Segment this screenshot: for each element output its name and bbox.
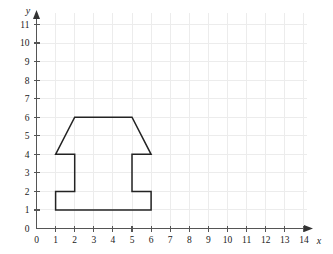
figure-polygon <box>56 117 152 210</box>
x-tick-label: 9 <box>206 235 211 245</box>
x-tick-label: 11 <box>242 235 251 245</box>
y-tick-label: 7 <box>25 94 30 104</box>
grid-lines <box>37 13 308 228</box>
x-tick-label: 7 <box>168 235 173 245</box>
y-tick-label: 0 <box>25 224 30 234</box>
figure-shapes <box>56 117 152 210</box>
x-axis-label: x <box>316 235 322 246</box>
x-tick-label: 6 <box>149 235 154 245</box>
y-tick-label: 8 <box>25 76 30 86</box>
x-axis-arrow-icon <box>304 225 313 232</box>
x-tick-label: 3 <box>91 235 96 245</box>
x-tick-label: 13 <box>280 235 290 245</box>
y-tick-label: 10 <box>20 38 30 48</box>
x-tick-label: 14 <box>299 235 309 245</box>
y-tick-label: 9 <box>25 57 30 67</box>
x-tick-label: 2 <box>72 235 77 245</box>
y-tick-label: 4 <box>25 150 30 160</box>
plot-svg: 01234567891011121314 01234567891011 x y <box>0 0 333 254</box>
x-tick-label: 10 <box>223 235 233 245</box>
x-tick-label: 0 <box>34 235 39 245</box>
y-tick-label: 3 <box>25 168 30 178</box>
y-tick-label: 1 <box>25 205 30 215</box>
x-tick-label: 1 <box>53 235 58 245</box>
y-axis-label: y <box>25 5 31 16</box>
x-tick-label: 5 <box>130 235 135 245</box>
coordinate-grid-figure: 01234567891011121314 01234567891011 x y <box>0 0 333 254</box>
y-axis-arrow-icon <box>33 10 40 19</box>
x-tick-label: 8 <box>187 235 192 245</box>
y-tick-label: 5 <box>25 131 30 141</box>
y-tick-label: 2 <box>25 187 30 197</box>
y-tick-label: 11 <box>20 20 29 30</box>
y-tick-label: 6 <box>25 113 30 123</box>
x-tick-label: 12 <box>261 235 271 245</box>
x-tick-label: 4 <box>111 235 116 245</box>
